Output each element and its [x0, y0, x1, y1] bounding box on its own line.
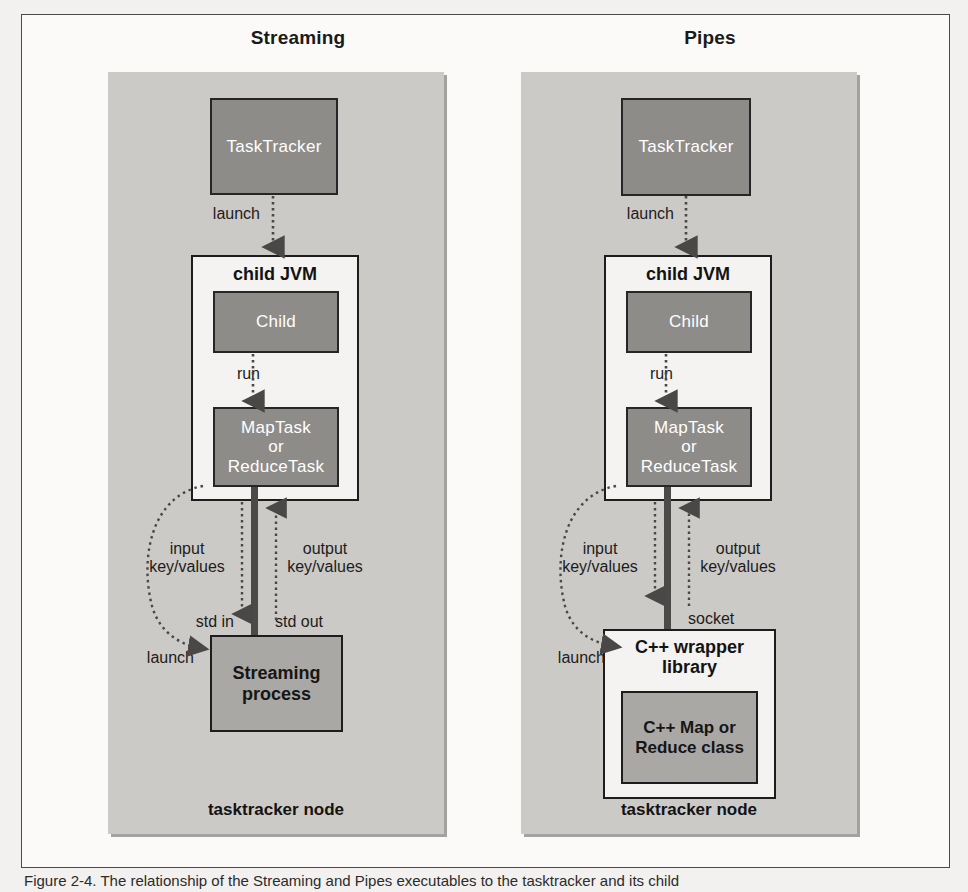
- figure-caption: Figure 2-4. The relationship of the Stre…: [24, 872, 944, 889]
- output-line-1: output: [270, 540, 380, 558]
- std-out-label-streaming: std out: [275, 613, 355, 631]
- maptask-line-1: MapTask: [654, 418, 724, 437]
- run-label-pipes: run: [615, 365, 673, 383]
- output-line-2: key/values: [683, 558, 793, 576]
- panel-title-streaming: Streaming: [208, 27, 388, 49]
- input-keyvalues-label-pipes: input key/values: [545, 540, 655, 577]
- cpp-inner-line-2: Reduce class: [635, 738, 744, 757]
- maptask-line-3: ReduceTask: [228, 457, 325, 476]
- tasktracker-node-caption-streaming: tasktracker node: [108, 800, 444, 820]
- maptask-line-1: MapTask: [241, 418, 311, 437]
- launch-curve-label-pipes: launch: [529, 649, 605, 667]
- maptask-reducetask-box-streaming: MapTask or ReduceTask: [213, 407, 339, 487]
- input-keyvalues-label-streaming: input key/values: [132, 540, 242, 577]
- pipe-bar-streaming: [251, 487, 258, 649]
- socket-label-pipes: socket: [688, 610, 778, 628]
- launch-label-pipes: launch: [596, 205, 674, 223]
- input-line-2: key/values: [132, 558, 242, 576]
- cpp-wrapper-line-1: C++ wrapper: [603, 637, 776, 657]
- panel-title-pipes: Pipes: [620, 27, 800, 49]
- child-box-pipes: Child: [626, 291, 752, 353]
- output-keyvalues-label-pipes: output key/values: [683, 540, 793, 577]
- maptask-reducetask-box-pipes: MapTask or ReduceTask: [626, 407, 752, 487]
- streaming-process-line-1: Streaming: [232, 663, 320, 683]
- cpp-map-reduce-class-box: C++ Map or Reduce class: [621, 691, 758, 784]
- streaming-process-line-2: process: [242, 684, 311, 704]
- child-jvm-label-pipes: child JVM: [604, 264, 772, 284]
- output-line-1: output: [683, 540, 793, 558]
- tasktracker-box-streaming: TaskTracker: [210, 98, 338, 195]
- std-in-label-streaming: std in: [162, 613, 234, 631]
- launch-curve-label-streaming: launch: [118, 649, 194, 667]
- cpp-wrapper-library-label: C++ wrapper library: [603, 637, 776, 677]
- run-label-streaming: run: [202, 365, 260, 383]
- cpp-wrapper-line-2: library: [603, 657, 776, 677]
- cpp-inner-line-1: C++ Map or: [643, 718, 736, 737]
- input-line-2: key/values: [545, 558, 655, 576]
- pipe-bar-pipes: [664, 487, 671, 629]
- input-line-1: input: [545, 540, 655, 558]
- streaming-process-box: Streaming process: [210, 635, 343, 732]
- input-line-1: input: [132, 540, 242, 558]
- maptask-line-2: or: [681, 437, 697, 456]
- child-jvm-label-streaming: child JVM: [191, 264, 359, 284]
- figure-frame: Streaming TaskTracker launch child JVM C…: [21, 14, 950, 868]
- maptask-line-3: ReduceTask: [641, 457, 738, 476]
- tasktracker-box-pipes: TaskTracker: [621, 98, 751, 196]
- output-keyvalues-label-streaming: output key/values: [270, 540, 380, 577]
- tasktracker-node-caption-pipes: tasktracker node: [521, 800, 857, 820]
- maptask-line-2: or: [268, 437, 284, 456]
- child-box-streaming: Child: [213, 291, 339, 353]
- launch-label-streaming: launch: [182, 205, 260, 223]
- output-line-2: key/values: [270, 558, 380, 576]
